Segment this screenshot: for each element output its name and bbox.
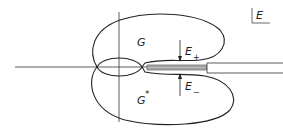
label-e-plus-sub: + (193, 53, 200, 62)
label-e-minus-sub: − (193, 88, 200, 97)
arrow-down-icon (178, 56, 182, 62)
branch-cut-shaded (147, 65, 207, 70)
branch-cut-slot (207, 63, 283, 73)
contour-g-upper (93, 14, 225, 67)
label-g-star-sup: * (145, 89, 150, 99)
diagram-canvas: G G * E + E − E (0, 0, 283, 132)
label-e-plus: E (185, 45, 192, 58)
label-e-minus: E (185, 80, 192, 93)
label-g: G (137, 36, 146, 49)
plane-label: E (256, 9, 263, 22)
